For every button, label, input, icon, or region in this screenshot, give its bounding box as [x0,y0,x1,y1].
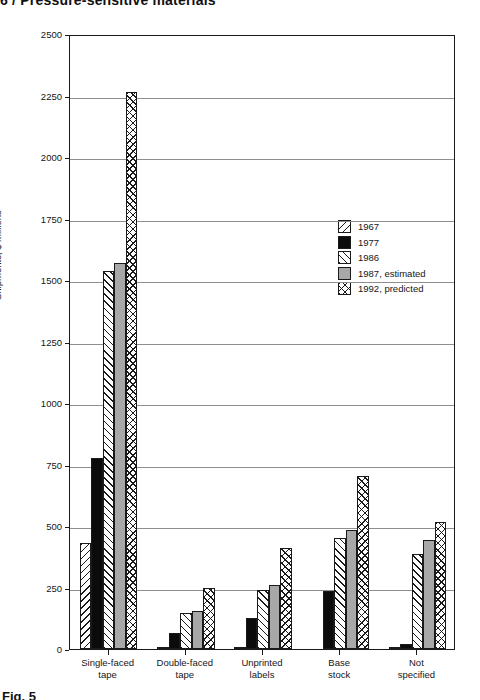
y-tick-label: 1750 [20,214,62,225]
y-tick-mark [65,404,69,405]
bar [280,548,292,649]
bar [389,647,401,649]
bar [80,543,92,649]
x-axis-category-label: Double-faced tape [146,657,223,680]
bar [323,591,335,649]
y-axis-label: Shipments, $ millions [0,210,3,300]
y-tick-label: 250 [20,583,62,594]
y-tick-label: 2250 [20,91,62,102]
y-tick-mark [65,97,69,98]
x-tick-mark [339,650,340,655]
x-axis-category-label: Not specified [378,657,455,680]
bar [423,540,435,649]
bar-group [224,36,301,649]
bar [203,588,215,649]
y-tick-mark [65,527,69,528]
y-tick-label: 2500 [20,29,62,40]
y-tick-label: 1250 [20,337,62,348]
bar [114,263,126,649]
bar [103,271,115,649]
bar [400,644,412,649]
y-tick-label: 0 [20,644,62,655]
x-tick-mark [108,650,109,655]
y-tick-mark [65,343,69,344]
y-tick-mark [65,35,69,36]
bar-group [379,36,456,649]
bar [334,538,346,649]
bar [126,92,138,649]
bar-group [302,36,379,649]
y-tick-label: 1000 [20,398,62,409]
bar [192,611,204,649]
bar [346,530,358,649]
y-tick-mark [65,466,69,467]
y-tick-mark [65,589,69,590]
y-tick-mark [65,220,69,221]
x-axis-category-label: Unprinted labels [223,657,300,680]
bar [412,554,424,649]
bar-group [70,36,147,649]
y-tick-mark [65,281,69,282]
bar [435,522,447,649]
x-axis-category-label: Base stock [301,657,378,680]
bar [91,458,103,649]
bar [157,647,169,649]
bar-group [147,36,224,649]
bar [169,633,181,649]
bar [180,613,192,649]
x-tick-mark [416,650,417,655]
bar [269,585,281,649]
x-tick-mark [185,650,186,655]
y-tick-mark [65,650,69,651]
figure-caption: Fig. 5 [2,689,202,700]
bar [257,590,269,649]
y-tick-label: 2000 [20,152,62,163]
y-tick-label: 1500 [20,275,62,286]
x-tick-mark [262,650,263,655]
bar [246,618,258,649]
plot-area: 1967197719861987, estimated1992, predict… [69,35,455,650]
bar-chart: Shipments, $ millions 1967197719861987, … [0,0,480,700]
bar [234,647,246,649]
y-tick-label: 500 [20,521,62,532]
y-tick-mark [65,158,69,159]
x-axis-category-label: Single-faced tape [69,657,146,680]
bar [357,476,369,649]
y-tick-label: 750 [20,460,62,471]
